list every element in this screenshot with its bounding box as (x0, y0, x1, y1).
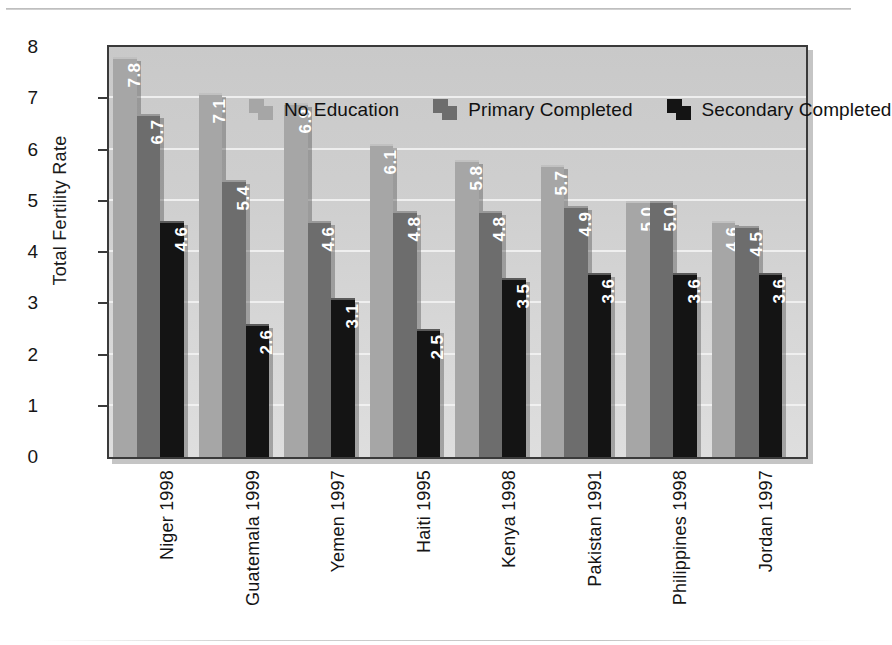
bar-value-label: 7.1 (210, 99, 230, 124)
y-tick-label: 2 (0, 344, 38, 366)
legend-label: No Education (284, 99, 399, 121)
bar-cap (113, 57, 137, 59)
bar-value-label: 4.9 (576, 211, 596, 236)
bar[interactable]: 6.9 (284, 103, 308, 457)
bar-cap (370, 144, 394, 146)
bar-value-label: 4.5 (747, 232, 767, 257)
y-tick-label: 5 (0, 190, 38, 212)
bar-value-label: 5.8 (467, 165, 487, 190)
bar-cap (331, 298, 355, 300)
bar-value-label: 2.6 (257, 329, 277, 354)
bar[interactable]: 3.1 (331, 298, 355, 457)
y-tick-label: 4 (0, 241, 38, 263)
bar-value-label: 6.7 (148, 119, 168, 144)
y-tick-label: 6 (0, 139, 38, 161)
bar-value-label: 5.7 (552, 170, 572, 195)
bar[interactable]: 7.1 (199, 93, 223, 457)
bar[interactable]: 3.6 (759, 273, 783, 458)
bar[interactable]: 4.6 (308, 221, 332, 457)
bar-value-label: 3.5 (514, 283, 534, 308)
bar-cap (308, 221, 332, 223)
bar[interactable]: 4.6 (712, 221, 736, 457)
legend-item[interactable]: No Education (249, 99, 399, 121)
legend-item[interactable]: Primary Completed (433, 99, 632, 121)
bar-shadow (184, 225, 188, 457)
x-axis-category-label: Pakistan 1991 (585, 470, 606, 645)
bar-value-label: 6.1 (381, 150, 401, 175)
bar-cap (246, 324, 270, 326)
x-axis-category-label: Philippines 1998 (670, 470, 691, 645)
y-tick-label: 0 (0, 446, 38, 468)
bar-cap (502, 278, 526, 280)
bar[interactable]: 3.6 (673, 273, 697, 458)
chart-legend: No EducationPrimary CompletedSecondary C… (249, 99, 892, 121)
bar[interactable]: 2.6 (246, 324, 270, 457)
bar-cap (199, 93, 223, 95)
bar-value-label: 3.1 (343, 304, 363, 329)
bar-cap (160, 221, 184, 223)
y-tick-label: 1 (0, 395, 38, 417)
bar-cap (712, 221, 736, 223)
y-tick-label: 8 (0, 36, 38, 58)
y-tick-mark (98, 354, 107, 356)
bar-value-label: 3.6 (685, 278, 705, 303)
bar-cap (479, 211, 503, 213)
bar[interactable]: 5.0 (650, 201, 674, 457)
bar-value-label: 4.6 (172, 227, 192, 252)
bar-cap (222, 180, 246, 182)
bar[interactable]: 4.5 (735, 226, 759, 457)
bar-cap (588, 273, 612, 275)
y-tick-mark (98, 405, 107, 407)
y-tick-mark (98, 149, 107, 151)
bar[interactable]: 5.7 (541, 165, 565, 457)
bar[interactable]: 4.8 (479, 211, 503, 457)
bar-value-label: 4.8 (405, 216, 425, 241)
bar[interactable]: 6.7 (137, 114, 161, 457)
y-tick-mark (98, 251, 107, 253)
plot-area: 7.86.74.67.15.42.66.94.63.16.14.82.55.84… (107, 45, 808, 459)
bar-value-label: 2.5 (428, 334, 448, 359)
bar-cap (759, 273, 783, 275)
bar-cap (564, 206, 588, 208)
bar-cap (541, 165, 565, 167)
bar[interactable]: 5.0 (626, 201, 650, 457)
bar[interactable]: 7.8 (113, 57, 137, 457)
legend-label: Primary Completed (468, 99, 632, 121)
bar-cap (735, 226, 759, 228)
bar-value-label: 5.0 (661, 206, 681, 231)
bar[interactable]: 4.6 (160, 221, 184, 457)
y-tick-mark (98, 200, 107, 202)
bar[interactable]: 4.8 (393, 211, 417, 457)
bar-cap (417, 329, 441, 331)
bar-cap (650, 201, 674, 203)
bar-cap (137, 114, 161, 116)
x-axis-category-label: Niger 1998 (157, 470, 178, 645)
x-axis-category-label: Haiti 1995 (414, 470, 435, 645)
x-axis-category-label: Kenya 1998 (499, 470, 520, 645)
bar-cap (455, 160, 479, 162)
legend-swatch-icon (433, 99, 459, 121)
y-tick-label: 7 (0, 87, 38, 109)
x-axis-category-label: Guatemala 1999 (243, 470, 264, 645)
legend-item[interactable]: Secondary Completed (667, 99, 892, 121)
bar[interactable]: 3.6 (588, 273, 612, 458)
bar-cap (626, 201, 650, 203)
y-axis-title: Total Fertility Rate (50, 1, 71, 421)
legend-label: Secondary Completed (702, 99, 892, 121)
bar[interactable]: 6.1 (370, 144, 394, 457)
x-axis-category-label: Jordan 1997 (756, 470, 777, 645)
bar[interactable]: 4.9 (564, 206, 588, 457)
bar-cap (393, 211, 417, 213)
legend-swatch-icon (667, 99, 693, 121)
y-tick-mark (98, 302, 107, 304)
bar[interactable]: 5.4 (222, 180, 246, 457)
bar-value-label: 7.8 (125, 63, 145, 88)
y-tick-mark (98, 97, 107, 99)
bar[interactable]: 2.5 (417, 329, 441, 457)
bar-value-label: 3.6 (770, 278, 790, 303)
bar-value-label: 3.6 (599, 278, 619, 303)
legend-swatch-icon (249, 99, 275, 121)
bar[interactable]: 5.8 (455, 160, 479, 457)
bar[interactable]: 3.5 (502, 278, 526, 457)
